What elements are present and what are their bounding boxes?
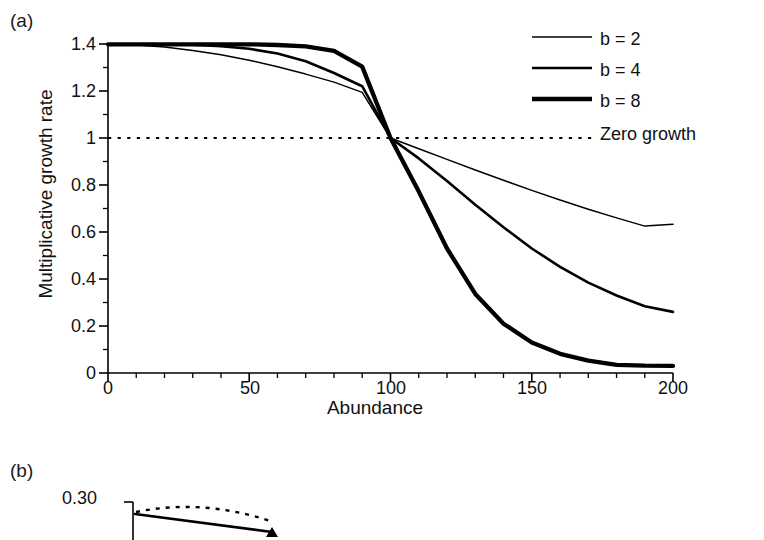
panel-a-axes [99, 44, 673, 382]
panel-b-axes [124, 502, 133, 540]
curve-b-4 [108, 44, 673, 312]
legend-swatches [532, 37, 592, 99]
figure-container: (a) (b) Multiplicative growth rate Abund… [0, 0, 764, 540]
curve-b-8 [108, 44, 673, 366]
panel-b-dotted-curve [136, 507, 270, 521]
plot-svg [0, 0, 764, 540]
panel-b-solid-curve [135, 514, 272, 532]
